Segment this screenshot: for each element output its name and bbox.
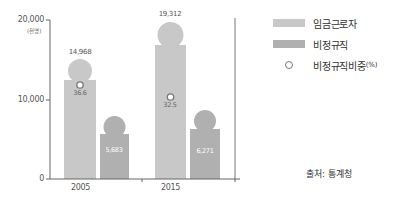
legend-item-ratio: 비정규직비중 (%) [273, 58, 393, 72]
label-2015-nonregular: 6,271 [185, 147, 225, 155]
bar-2005-wage-workers [64, 59, 96, 179]
legend-item-nonregular: 비정규직 [273, 37, 393, 51]
label-2015-ratio: 32.5 [150, 101, 190, 109]
label-2005-nonregular: 5,683 [94, 146, 134, 154]
source-note: 출처: 통계청 [306, 167, 352, 180]
legend-item-wage-workers: 임금근로자 [273, 16, 393, 30]
legend-label-nonregular: 비정규직 [313, 37, 348, 52]
legend: 임금근로자 비정규직 비정규직비중 (%) [273, 16, 393, 72]
legend-swatch-light [273, 19, 305, 27]
bar-2015-nonregular [190, 110, 220, 179]
label-2015-total: 19,312 [150, 10, 190, 18]
legend-label-ratio-unit: (%) [366, 61, 378, 69]
x-label-2005: 2005 [71, 183, 90, 192]
legend-swatch-dark [273, 40, 305, 48]
legend-circle-marker-icon [273, 61, 305, 69]
legend-label-wage-workers: 임금근로자 [313, 16, 357, 31]
label-2005-ratio: 36.6 [60, 89, 100, 97]
label-2005-total: 14,968 [60, 48, 100, 56]
x-label-2015: 2015 [161, 183, 180, 192]
legend-label-ratio: 비정규직비중 [313, 58, 366, 73]
